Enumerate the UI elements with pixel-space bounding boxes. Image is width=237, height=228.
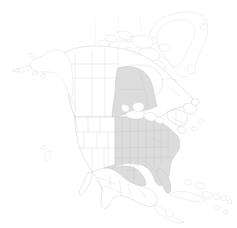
map-container xyxy=(0,0,237,228)
region-caribbean xyxy=(170,180,232,214)
region-alaska xyxy=(12,50,76,116)
north-america-map xyxy=(0,0,237,228)
region-mexico xyxy=(79,168,157,208)
region-united-states-west xyxy=(75,117,115,172)
region-central-america xyxy=(154,205,184,223)
